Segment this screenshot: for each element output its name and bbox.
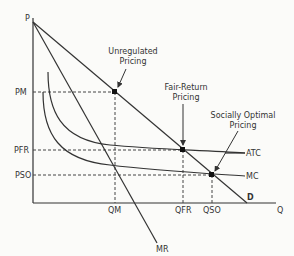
socially-optimal-annotation-line2: Pricing xyxy=(230,121,257,130)
demand-label: D xyxy=(247,193,254,202)
quantity-axis-label: Q xyxy=(277,206,283,215)
unregulated-annotation-line2: Pricing xyxy=(120,57,147,66)
pso-label: PSO xyxy=(15,171,31,180)
qfr-label: QFR xyxy=(175,206,192,215)
mc-label: MC xyxy=(246,172,259,181)
pm-label: PM xyxy=(15,88,27,97)
mr-label: MR xyxy=(156,245,169,254)
socially-optimal-point xyxy=(209,172,214,177)
atc-label: ATC xyxy=(246,149,261,158)
qm-label: QM xyxy=(108,206,121,215)
fair-return-annotation-line1: Fair-Return xyxy=(164,83,207,92)
unregulated-arrow-icon xyxy=(118,69,126,87)
fair-return-annotation-line2: Pricing xyxy=(173,93,200,102)
socially-optimal-annotation-line1: Socially Optimal xyxy=(211,111,276,120)
pfr-label: PFR xyxy=(14,146,29,155)
qso-label: QSO xyxy=(203,206,221,215)
fair-return-point xyxy=(180,147,185,152)
unregulated-annotation-line1: Unregulated xyxy=(108,47,157,56)
regulated-monopoly-diagram: P Q PM PFR PSO QM QFR QSO ATC MC D MR Un… xyxy=(0,0,294,256)
unregulated-point xyxy=(112,89,117,94)
price-axis-label: P xyxy=(25,14,30,23)
